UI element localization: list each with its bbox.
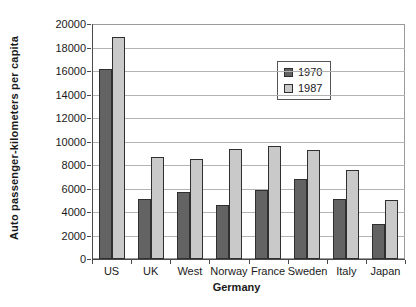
x-axis-tick [249,260,250,264]
y-axis-tick [87,24,91,25]
bar-uk-1987 [151,157,164,259]
y-tick-label: 10000 [46,136,86,148]
y-tick-label: 0 [46,253,86,265]
x-tick-label-west: West [170,265,209,278]
y-axis-tick [87,48,91,49]
y-axis-tick [87,236,91,237]
y-tick-label: 14000 [46,89,86,101]
bar-france-1970 [255,190,268,259]
bar-uk-1970 [138,199,151,259]
bar-west-1970 [177,192,190,259]
bar-italy-1970 [333,199,346,259]
x-axis-tick [405,260,406,264]
legend-item-1970: 1970 [284,67,322,78]
gridline-10000 [92,142,405,143]
x-axis-tick [209,260,210,264]
legend-label-1970: 1970 [298,67,322,78]
legend-swatch-1987 [284,84,293,93]
x-axis-tick [288,260,289,264]
x-axis-tick [92,260,93,264]
gridline-18000 [92,48,405,49]
bar-norway-1987 [229,149,242,259]
x-tick-label-us: US [92,265,131,278]
bar-chart: Auto passenger-kilometers per capita Ger… [0,0,416,307]
x-axis-title: Germany [80,281,393,293]
y-axis-tick [87,71,91,72]
x-axis-tick [131,260,132,264]
bar-japan-1970 [372,224,385,259]
bar-us-1987 [112,37,125,259]
x-tick-label-france: France [249,265,288,278]
legend-label-1987: 1987 [298,83,322,94]
x-tick-label-uk: UK [131,265,170,278]
y-tick-label: 16000 [46,65,86,77]
bar-west-1987 [190,159,203,259]
y-axis-title: Auto passenger-kilometers per capita [8,36,20,240]
gridline-12000 [92,118,405,119]
y-axis-tick [87,259,91,260]
legend-item-1987: 1987 [284,83,322,94]
legend-swatch-1970 [284,68,293,77]
y-axis-tick [87,118,91,119]
y-axis-line [92,24,93,260]
bar-italy-1987 [346,170,359,259]
y-tick-label: 8000 [46,159,86,171]
y-axis-tick [87,212,91,213]
gridline-14000 [92,95,405,96]
bar-norway-1970 [216,205,229,259]
y-axis-tick [87,165,91,166]
x-axis-tick [366,260,367,264]
x-tick-label-japan: Japan [366,265,405,278]
gridline-16000 [92,71,405,72]
x-tick-label-sweden: Sweden [288,265,327,278]
x-tick-label-norway: Norway [209,265,248,278]
bar-sweden-1970 [294,179,307,259]
y-tick-label: 20000 [46,18,86,30]
x-axis-tick [170,260,171,264]
y-axis-tick [87,142,91,143]
y-tick-label: 4000 [46,206,86,218]
y-axis-tick [87,189,91,190]
y-tick-label: 2000 [46,230,86,242]
bar-japan-1987 [385,200,398,259]
bar-sweden-1987 [307,150,320,259]
y-tick-label: 18000 [46,42,86,54]
bar-us-1970 [99,69,112,259]
x-axis-tick [327,260,328,264]
y-tick-label: 12000 [46,112,86,124]
y-tick-label: 6000 [46,183,86,195]
y-axis-tick [87,95,91,96]
x-tick-label-italy: Italy [327,265,366,278]
bar-france-1987 [268,146,281,259]
gridline-8000 [92,165,405,166]
